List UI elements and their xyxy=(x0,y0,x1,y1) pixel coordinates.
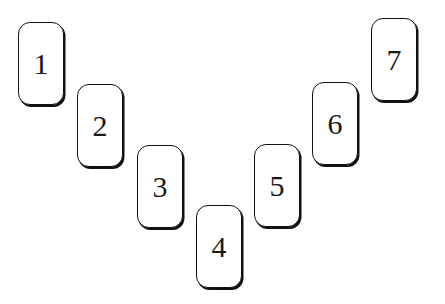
card-number: 3 xyxy=(153,172,168,202)
card-number: 2 xyxy=(93,111,108,141)
card-number: 1 xyxy=(34,49,49,79)
card-4[interactable]: 4 xyxy=(196,205,242,288)
card-number: 4 xyxy=(212,232,227,262)
card-number: 6 xyxy=(328,109,343,139)
card-3[interactable]: 3 xyxy=(137,145,183,228)
card-number: 7 xyxy=(387,45,402,75)
card-5[interactable]: 5 xyxy=(254,144,300,227)
card-1[interactable]: 1 xyxy=(18,22,64,105)
card-6[interactable]: 6 xyxy=(312,82,358,165)
card-7[interactable]: 7 xyxy=(371,18,417,101)
card-2[interactable]: 2 xyxy=(77,84,123,167)
card-number: 5 xyxy=(270,171,285,201)
